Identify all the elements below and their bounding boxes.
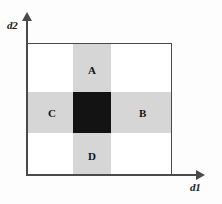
- region-label-c: C: [48, 108, 56, 119]
- region-label-b: B: [139, 108, 146, 119]
- region-label-a: A: [88, 65, 96, 76]
- y-axis-label: d2: [7, 20, 17, 31]
- plot-square: A B C D: [27, 43, 172, 175]
- diagram-figure: d2 d1 A B C D: [0, 0, 222, 204]
- x-axis-label: d1: [190, 182, 200, 193]
- region-label-d: D: [88, 151, 96, 162]
- intersection-cell: [73, 92, 111, 133]
- y-axis-arrow-icon: [22, 12, 32, 21]
- x-axis-arrow-icon: [196, 170, 205, 180]
